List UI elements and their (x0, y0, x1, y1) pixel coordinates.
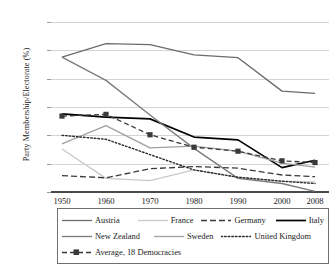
legend-item-italy[interactable]: Italy (276, 215, 324, 226)
legend-row: AustriaFranceGermanyItaly (62, 212, 324, 228)
series-marker (147, 132, 152, 137)
series-line-italy (62, 114, 315, 168)
legend-key-new-zealand (62, 231, 92, 242)
legend-item-austria[interactable]: Austria (62, 215, 120, 226)
series-line-austria (62, 44, 315, 94)
legend-row: New ZealandSwedenUnited Kingdom (62, 228, 324, 244)
series-marker (191, 145, 196, 150)
legend-key-france (138, 215, 168, 226)
series-marker (279, 158, 284, 163)
series-line-united-kingdom (62, 135, 315, 183)
legend-item-united-kingdom[interactable]: United Kingdom (221, 231, 311, 242)
series-line-sweden (62, 126, 315, 167)
legend-label: New Zealand (95, 232, 140, 241)
series-lines (51, 22, 329, 192)
legend-label: France (171, 216, 194, 225)
series-marker (235, 149, 240, 154)
legend-item-sweden[interactable]: Sweden (154, 231, 214, 242)
y-axis-title: Party Membership/Electorate (%) (22, 17, 31, 193)
legend-key-austria (62, 215, 92, 226)
series-marker (103, 112, 108, 117)
chart-legend: AustriaFranceGermanyItalyNew ZealandSwed… (57, 208, 329, 264)
legend-key-germany (201, 215, 231, 226)
legend-item-germany[interactable]: Germany (201, 215, 265, 226)
legend-key-average-18-democracies (62, 247, 92, 258)
legend-label: Average, 18 Democracies (95, 248, 181, 257)
plot-area: 051015202530 195019601970198019902000200… (51, 22, 329, 192)
x-tick-label: 1980 (171, 196, 217, 206)
legend-item-france[interactable]: France (138, 215, 194, 226)
legend-label: Italy (309, 216, 324, 225)
legend-key-united-kingdom (221, 231, 251, 242)
x-tick-label: 1950 (39, 196, 85, 206)
legend-label: Germany (234, 216, 265, 225)
legend-key-italy (276, 215, 306, 226)
series-marker (59, 113, 64, 118)
legend-item-average-18-democracies[interactable]: Average, 18 Democracies (62, 247, 181, 258)
legend-label: United Kingdom (254, 232, 311, 241)
x-tick-label: 1990 (215, 196, 261, 206)
chart-figure: Party Membership/Electorate (%) 05101520… (0, 0, 336, 273)
legend-key-sweden (154, 231, 184, 242)
legend-label: Austria (95, 216, 120, 225)
legend-item-new-zealand[interactable]: New Zealand (62, 231, 140, 242)
legend-label: Sweden (187, 232, 214, 241)
x-tick-label: 1960 (83, 196, 129, 206)
legend-row: Average, 18 Democracies (62, 244, 324, 260)
series-marker (312, 160, 317, 165)
x-tick-label: 2008 (292, 196, 336, 206)
x-tick-label: 1970 (127, 196, 173, 206)
